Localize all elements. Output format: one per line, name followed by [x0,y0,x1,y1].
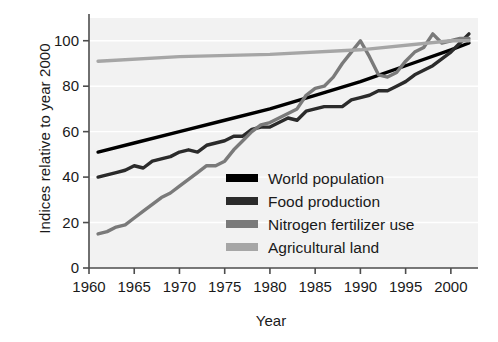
legend-label-0: World population [268,170,384,187]
legend-label-1: Food production [268,193,380,210]
legend-label-3: Agricultural land [268,239,379,256]
y-tick-label: 60 [37,123,79,140]
y-tick-label: 100 [37,32,79,49]
y-tick-label: 20 [37,214,79,231]
legend-swatch-0 [226,174,258,182]
chart-container: Indices relative to year 2000 Year World… [0,0,498,342]
legend-swatch-2 [226,220,258,228]
y-tick-label: 0 [37,259,79,276]
y-tick-label: 40 [37,168,79,185]
x-tick-label: 2000 [421,278,481,295]
legend-swatch-1 [226,197,258,205]
legend-swatch-3 [226,243,258,251]
y-tick-label: 80 [37,77,79,94]
x-axis-label: Year [0,312,498,329]
legend-label-2: Nitrogen fertilizer use [268,216,414,233]
